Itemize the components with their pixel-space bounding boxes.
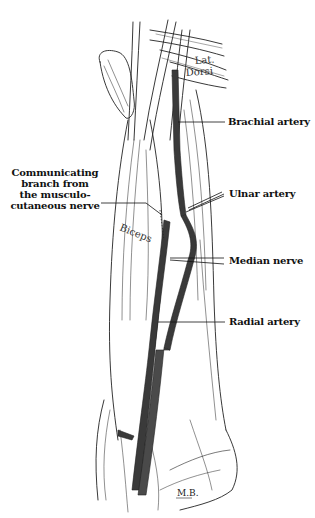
- label-communicating-branch: Communicating branch from the musculo- c…: [8, 167, 102, 211]
- communicating-line1: Communicating: [8, 167, 102, 178]
- communicating-line3: the musculo-: [8, 189, 102, 200]
- communicating-line2: branch from: [8, 178, 102, 189]
- label-brachial-artery: Brachial artery: [228, 116, 310, 127]
- label-radial-artery: Radial artery: [229, 316, 300, 327]
- label-lat-dorsi-2: Dorsi: [185, 65, 213, 78]
- label-lat-dorsi: Lat.: [194, 54, 215, 66]
- label-ulnar-artery: Ulnar artery: [229, 188, 295, 199]
- signature: M.B.: [177, 488, 199, 498]
- label-median-nerve: Median nerve: [229, 255, 303, 266]
- communicating-line4: cutaneous nerve: [8, 200, 102, 211]
